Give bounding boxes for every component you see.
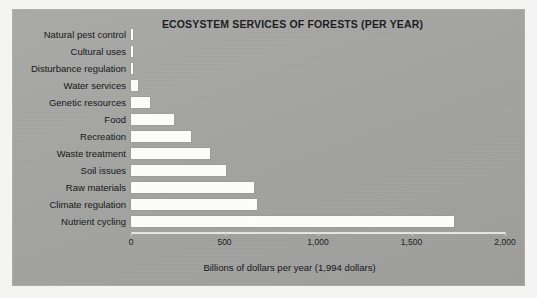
x-tick-label: 1,000 — [307, 237, 328, 247]
category-label: Food — [104, 115, 126, 125]
bar-row: Recreation — [131, 128, 505, 145]
category-label: Disturbance regulation — [31, 64, 126, 74]
bar — [131, 131, 191, 142]
bar-row: Natural pest control — [131, 26, 505, 43]
x-tick-label: 0 — [129, 237, 134, 247]
category-label: Cultural uses — [71, 47, 126, 57]
plot-area: Natural pest controlCultural usesDisturb… — [131, 26, 505, 240]
bar-row: Genetic resources — [131, 94, 505, 111]
bar — [131, 165, 226, 176]
bar-row: Food — [131, 111, 505, 128]
bar-rows: Natural pest controlCultural usesDisturb… — [131, 26, 505, 230]
x-tick — [225, 232, 226, 236]
category-label: Recreation — [80, 132, 126, 142]
bar-row: Climate regulation — [131, 196, 505, 213]
x-tick — [505, 232, 506, 236]
x-tick — [131, 232, 132, 236]
x-tick-label: 2,000 — [494, 237, 515, 247]
bar — [131, 148, 210, 159]
x-axis-title: Billions of dollars per year (1,994 doll… — [12, 262, 525, 273]
category-label: Natural pest control — [44, 30, 126, 40]
category-label: Raw materials — [66, 183, 126, 193]
x-tick-label: 500 — [217, 237, 231, 247]
bar-row: Cultural uses — [131, 43, 505, 60]
category-label: Waste treatment — [57, 149, 126, 159]
bar-row: Disturbance regulation — [131, 60, 505, 77]
bar — [131, 114, 174, 125]
bar-row: Soil issues — [131, 162, 505, 179]
bar — [131, 80, 138, 91]
bar-row: Waste treatment — [131, 145, 505, 162]
category-label: Climate regulation — [49, 200, 126, 210]
x-tick-label: 1,500 — [401, 237, 422, 247]
figure-canvas: ECOSYSTEM SERVICES OF FORESTS (PER YEAR)… — [0, 0, 537, 298]
category-label: Soil issues — [81, 166, 126, 176]
chart-panel: ECOSYSTEM SERVICES OF FORESTS (PER YEAR)… — [12, 9, 525, 286]
category-label: Nutrient cycling — [61, 217, 126, 227]
x-tick — [318, 232, 319, 236]
x-tick — [412, 232, 413, 236]
category-label: Genetic resources — [49, 98, 126, 108]
bar — [131, 63, 133, 74]
bar — [131, 199, 257, 210]
category-label: Water services — [64, 81, 126, 91]
bar-row: Raw materials — [131, 179, 505, 196]
bar — [131, 29, 133, 40]
bar-row: Nutrient cycling — [131, 213, 505, 230]
bar — [131, 46, 133, 57]
bar — [131, 182, 254, 193]
bar — [131, 216, 454, 227]
bar-row: Water services — [131, 77, 505, 94]
bar — [131, 97, 150, 108]
